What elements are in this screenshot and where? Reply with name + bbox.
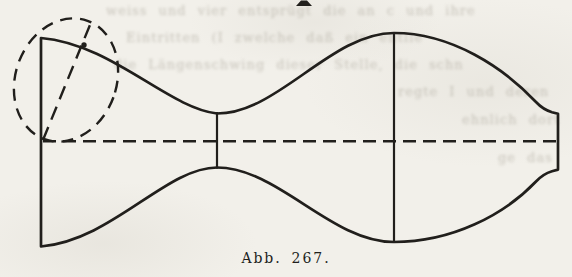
standing-wave-figure (0, 0, 572, 277)
cropped-glyph-artifact (296, 1, 312, 7)
dashed-orbit-ellipse (0, 4, 135, 157)
intersection-dot (81, 42, 86, 47)
figure-caption: Abb. 267. (0, 250, 572, 266)
